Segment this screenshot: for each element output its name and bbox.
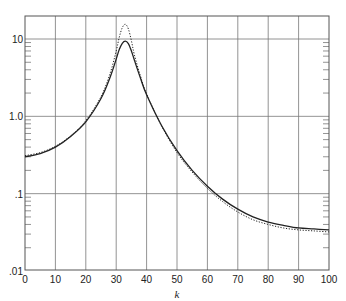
x-tick-label: 0	[22, 274, 28, 285]
x-tick-label: 60	[202, 274, 214, 285]
log-plot: 0102030405060708090100 .01.11.010 k	[0, 0, 346, 301]
x-tick-label: 100	[321, 274, 338, 285]
x-tick-label: 40	[141, 274, 153, 285]
y-tick-label: 10	[12, 34, 24, 45]
x-tick-label: 80	[263, 274, 275, 285]
x-tick-label: 30	[111, 274, 123, 285]
y-tick-label: .1	[15, 189, 24, 200]
y-tick-label: .01	[9, 266, 23, 277]
grid-lines	[25, 16, 329, 270]
x-tick-label: 90	[293, 274, 305, 285]
x-tick-label: 70	[232, 274, 244, 285]
x-axis-tick-labels: 0102030405060708090100	[22, 274, 338, 285]
y-axis-tick-labels: .01.11.010	[9, 34, 23, 277]
x-tick-label: 10	[50, 274, 62, 285]
x-tick-label: 20	[80, 274, 92, 285]
x-tick-label: 50	[171, 274, 183, 285]
y-tick-label: 1.0	[9, 111, 23, 122]
x-axis-label: k	[175, 288, 181, 300]
